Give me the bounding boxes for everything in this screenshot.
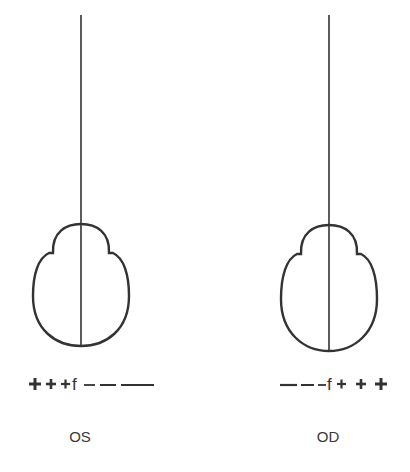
od-figure	[281, 15, 377, 351]
fixation-mark: f	[72, 375, 77, 394]
od-scale: f	[280, 375, 387, 394]
os-scale: f	[29, 375, 154, 394]
os-figure	[33, 15, 129, 347]
fixation-mark: f	[327, 375, 332, 394]
eye-label-od: OD	[298, 428, 358, 445]
plus-icon	[337, 380, 346, 389]
plus-icon	[356, 379, 366, 389]
eye-label-os: OS	[50, 428, 110, 445]
plus-icon	[61, 380, 70, 389]
diagram-canvas: f f	[0, 0, 410, 472]
plus-icon	[375, 378, 387, 390]
plus-icon	[46, 379, 56, 389]
plus-icon	[29, 378, 41, 390]
